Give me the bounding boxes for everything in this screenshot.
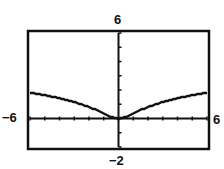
xmax-label: 6 (213, 113, 220, 126)
xmin-label: −6 (2, 111, 17, 124)
axes (30, 33, 207, 147)
ymax-label: 6 (114, 13, 121, 26)
graph-canvas (0, 0, 224, 169)
ymin-label: −2 (109, 154, 124, 167)
